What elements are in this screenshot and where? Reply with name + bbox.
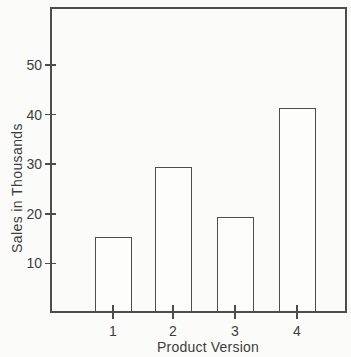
y-tick-label: 50 [12, 57, 42, 73]
x-tick-mark [296, 305, 298, 319]
x-axis-title: Product Version [121, 339, 295, 355]
x-tick-mark [234, 305, 236, 319]
bar-version-1 [95, 237, 132, 311]
x-tick-label: 2 [158, 324, 188, 339]
bar-version-2 [155, 167, 192, 311]
y-axis-title: Sales in Thousands [8, 78, 26, 298]
x-tick-mark [172, 305, 174, 319]
y-tick-mark [45, 213, 56, 215]
bar-version-3 [217, 217, 254, 311]
y-tick-mark [45, 263, 56, 265]
bar-version-4 [279, 108, 316, 311]
x-tick-label: 3 [220, 324, 250, 339]
x-tick-label: 4 [282, 324, 312, 339]
y-tick-mark [45, 64, 56, 66]
bar-chart: 1020304050 1234 Sales in Thousands Produ… [0, 0, 351, 357]
y-tick-mark [45, 163, 56, 165]
y-tick-mark [45, 114, 56, 116]
x-tick-mark [112, 305, 114, 319]
x-tick-label: 1 [98, 324, 128, 339]
